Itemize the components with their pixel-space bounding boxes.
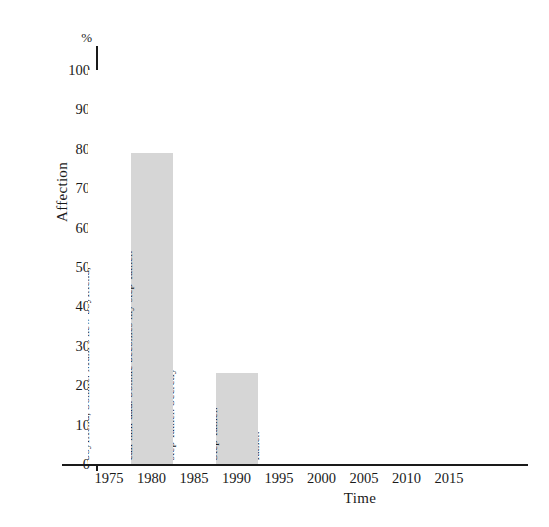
x-tick-label-2000: 2000 [299,470,345,486]
bar-annotation-line: call him dad. Sonnie becomes my step-fat… [131,245,135,460]
x-tick-label-1990: 1990 [214,470,260,486]
bar-1975[interactable]: Mum’s new boyfriend, Sonnie. Mum’s newbo… [88,70,130,464]
y-tick-label-80: 80 [56,142,90,156]
y-tick-label-60: 60 [56,221,90,235]
bar-annotation-1980: Sonnie becomes my step-father. He asks m… [131,245,135,460]
y-tick-label-0: 0 [56,457,90,471]
bar-label-wrap: Step-father. [258,413,300,464]
bar-annotation-line: Step-father. [216,407,220,460]
bar-annotation-line: father. [258,431,262,460]
x-axis-line [62,464,528,466]
y-tick-label-10: 10 [56,418,90,432]
x-tick-label-2010: 2010 [384,470,430,486]
x-tick-label-2005: 2005 [341,470,387,486]
bar-annotation-1995: Step-father. [258,431,262,460]
bar-1990[interactable]: Step-father.Step-father. [216,373,258,464]
y-tick-label-100: 100 [56,63,90,77]
bar-1995[interactable]: Step-father. [258,413,300,464]
x-tick-label-2015: 2015 [426,470,472,486]
x-tick-label-1975: 1975 [86,470,132,486]
bar-annotation-1985: Secretly, I call himstep-father. Secretl… [173,368,177,460]
bar-label-wrap: Secretly, I call himstep-father. Secretl… [173,322,215,464]
x-tick-label-1985: 1985 [171,470,217,486]
bar-label-wrap: Sonnie becomes my step-father. He asks m… [131,153,173,464]
x-axis-title: Time [300,490,420,507]
bar-annotation-line: boyfriend, Sonnie. Mum’s new boyfriend, [88,260,92,460]
bar-annotation-line: step-father. Secretly [173,368,177,460]
bar-1985[interactable]: Secretly, I call himstep-father. Secretl… [173,322,215,464]
y-tick-label-90: 90 [56,102,90,116]
bar-annotation-1990: Step-father.Step-father. [216,407,220,460]
x-tick-label-1995: 1995 [256,470,302,486]
y-tick-label-70: 70 [56,181,90,195]
y-axis-unit-label: % [62,30,92,46]
y-tick-label-50: 50 [56,260,90,274]
y-tick-label-30: 30 [56,339,90,353]
bar-1980[interactable]: Sonnie becomes my step-father. He asks m… [131,153,173,464]
bar-label-wrap: Mum’s new boyfriend, Sonnie. Mum’s newbo… [88,70,130,464]
bar-label-wrap: Step-father.Step-father. [216,373,258,464]
bar-chart-figure: % Affection Time 0102030405060708090100 … [0,0,549,527]
x-tick-label-1980: 1980 [129,470,175,486]
y-tick-label-40: 40 [56,299,90,313]
y-tick-label-20: 20 [56,378,90,392]
bar-annotation-1975: Mum’s new boyfriend, Sonnie. Mum’s newbo… [88,260,92,460]
